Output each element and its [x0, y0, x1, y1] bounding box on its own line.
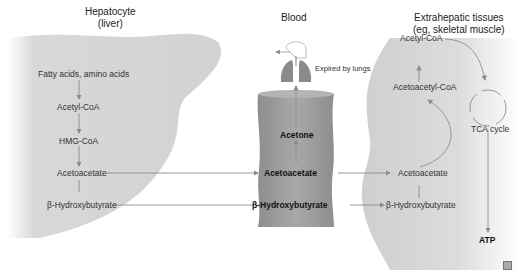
ketone-body-diagram: Hepatocyte (liver) Blood Extrahepatic ti… [0, 0, 521, 279]
liver-hmg-coa: HMG-CoA [59, 137, 98, 146]
tissue-acetyl-coa: Acetyl-CoA [400, 34, 443, 43]
expired-by-lungs-label: Expired by lungs [315, 65, 370, 73]
blood-acetoacetate: Acetoacetate [264, 169, 317, 178]
tissue-acetoacetate: Acetoacetate [398, 169, 448, 178]
tissue-acetoacetyl-coa: Acetoacetyl-CoA [393, 83, 456, 92]
blood-beta-hydroxybutyrate: β-Hydroxybutyrate [252, 201, 328, 210]
tissue-header-line1: Extrahepatic tissues [413, 12, 505, 24]
liver-beta-hydroxybutyrate: β-Hydroxybutyrate [47, 201, 117, 210]
blood-acetone: Acetone [280, 131, 314, 140]
liver-header: Hepatocyte (liver) [85, 6, 136, 29]
tca-cycle-label: TCA cycle [471, 125, 509, 134]
tissue-shape [362, 38, 521, 270]
tissue-header: Extrahepatic tissues (eg, skeletal muscl… [413, 12, 505, 35]
atp-label: ATP [479, 236, 495, 245]
liver-header-line1: Hepatocyte [85, 6, 136, 18]
blood-header: Blood [281, 12, 307, 24]
lungs-icon [276, 42, 311, 82]
expand-icon[interactable] [503, 261, 512, 270]
liver-fatty-acids: Fatty acids, amino acids [38, 70, 129, 79]
tissue-beta-hydroxybutyrate: β-Hydroxybutyrate [386, 201, 456, 210]
liver-acetoacetate: Acetoacetate [57, 169, 107, 178]
liver-acetyl-coa: Acetyl-CoA [57, 103, 100, 112]
liver-header-line2: (liver) [85, 18, 136, 30]
